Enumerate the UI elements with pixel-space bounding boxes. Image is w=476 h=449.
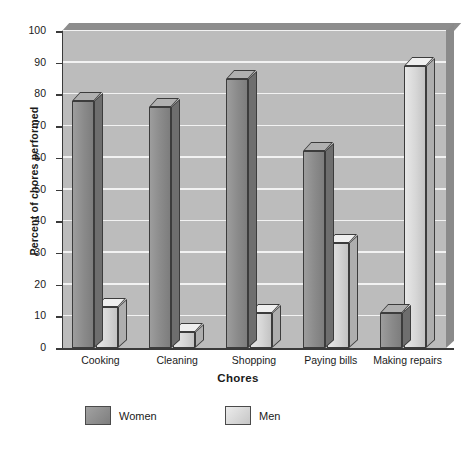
y-tick-label: 90: [0, 63, 56, 75]
gridline: [63, 30, 446, 32]
plot-area: [62, 31, 446, 348]
legend-item-men: Men: [225, 406, 280, 425]
y-tick-label: 50: [0, 190, 56, 202]
y-tick-label: 40: [0, 221, 56, 233]
bar-side-face: [118, 299, 127, 348]
y-tick-mark: [56, 94, 62, 96]
bar-side-face: [94, 93, 103, 348]
bar-women-paying-bills: [303, 151, 325, 348]
y-tick-label: 0: [0, 348, 56, 360]
gridline: [63, 61, 446, 63]
y-tick-mark: [56, 190, 62, 192]
y-tick-label: 80: [0, 94, 56, 106]
bar-women-shopping: [226, 79, 248, 348]
men-swatch: [225, 406, 251, 425]
bar-side-face: [325, 143, 334, 348]
y-tick-label: 10: [0, 316, 56, 328]
bar-front-face: [72, 101, 94, 348]
bar-side-face: [171, 99, 180, 348]
y-tick-mark: [56, 221, 62, 223]
bar-women-cooking: [72, 101, 94, 348]
y-tick-label: 70: [0, 126, 56, 138]
x-tick-label: Making repairs: [358, 354, 458, 366]
bar-women-cleaning: [149, 107, 171, 348]
bar-front-face: [303, 151, 325, 348]
plot-right-bevel: [446, 24, 454, 348]
x-axis-title: Chores: [0, 372, 476, 384]
legend-label: Women: [119, 410, 157, 422]
y-tick-label: 60: [0, 158, 56, 170]
bar-front-face: [226, 79, 248, 348]
y-tick-mark: [56, 253, 62, 255]
y-tick-mark: [56, 158, 62, 160]
bar-front-face: [380, 313, 402, 348]
y-tick-mark: [56, 126, 62, 128]
bar-side-face: [248, 70, 257, 348]
y-tick-mark: [56, 316, 62, 318]
women-swatch: [85, 406, 111, 425]
y-tick-label: 100: [0, 31, 56, 43]
y-tick-mark: [56, 31, 62, 33]
legend-item-women: Women: [85, 406, 157, 425]
bar-side-face: [349, 235, 358, 348]
y-tick-mark: [56, 63, 62, 65]
y-tick-mark: [56, 285, 62, 287]
bar-front-face: [149, 107, 171, 348]
bar-chart: Percent of chores performed 010203040506…: [0, 0, 476, 449]
y-tick-label: 20: [0, 285, 56, 297]
legend-label: Men: [259, 410, 280, 422]
bar-women-making-repairs: [380, 313, 402, 348]
x-axis-line: [62, 348, 454, 350]
y-tick-label: 30: [0, 253, 56, 265]
y-tick-mark: [56, 348, 62, 350]
bar-side-face: [426, 58, 435, 348]
